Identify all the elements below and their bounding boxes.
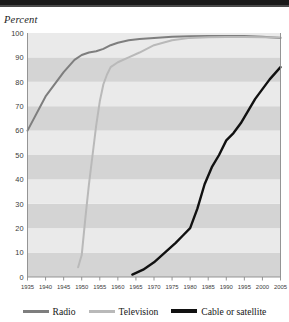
legend-item-cable[interactable]: Cable or satellite: [171, 306, 266, 317]
x-tick-label: 1985: [202, 284, 216, 290]
legend-swatch-cable: [171, 309, 197, 312]
y-tick-label: 70: [15, 102, 23, 111]
y-tick-label: 80: [15, 78, 23, 87]
legend-label-radio: Radio: [53, 306, 76, 317]
x-tick-label: 1950: [75, 284, 89, 290]
x-tick-label: 2000: [256, 284, 270, 290]
line-chart: 0102030405060708090100 19351940194519501…: [0, 0, 289, 300]
x-tick-label: 1970: [147, 284, 161, 290]
y-tick-label: 10: [15, 248, 23, 257]
x-tick-label: 1995: [238, 284, 252, 290]
x-tick-label: 1945: [57, 284, 71, 290]
chart-svg: 0102030405060708090100 19351940194519501…: [0, 0, 289, 300]
y-tick-label: 100: [11, 29, 23, 38]
legend-label-television: Television: [119, 306, 159, 317]
y-tick-label: 0: [19, 273, 23, 282]
legend-swatch-television: [89, 310, 115, 313]
x-tick-labels: 1935194019451950195519601965197019751980…: [21, 284, 288, 290]
legend-label-cable: Cable or satellite: [201, 306, 266, 317]
y-tick-label: 60: [15, 126, 23, 135]
x-tick-label: 1960: [111, 284, 125, 290]
y-tick-label: 30: [15, 200, 23, 209]
x-tick-label: 1975: [166, 284, 180, 290]
y-tick-label: 20: [15, 224, 23, 233]
legend-swatch-radio: [23, 310, 49, 313]
y-tick-labels: 0102030405060708090100: [11, 29, 23, 282]
legend-item-radio[interactable]: Radio: [23, 306, 76, 317]
y-tick-label: 40: [15, 175, 23, 184]
y-tick-label: 90: [15, 53, 23, 62]
x-tick-label: 2005: [274, 284, 288, 290]
x-tick-label: 1990: [220, 284, 234, 290]
chart-legend: RadioTelevisionCable or satellite: [0, 300, 289, 322]
x-tick-label: 1980: [184, 284, 198, 290]
legend-item-television[interactable]: Television: [89, 306, 159, 317]
x-tick-label: 1935: [21, 284, 35, 290]
y-tick-label: 50: [15, 151, 23, 160]
x-tick-label: 1955: [93, 284, 107, 290]
x-tick-label: 1965: [129, 284, 143, 290]
x-tick-label: 1940: [39, 284, 53, 290]
